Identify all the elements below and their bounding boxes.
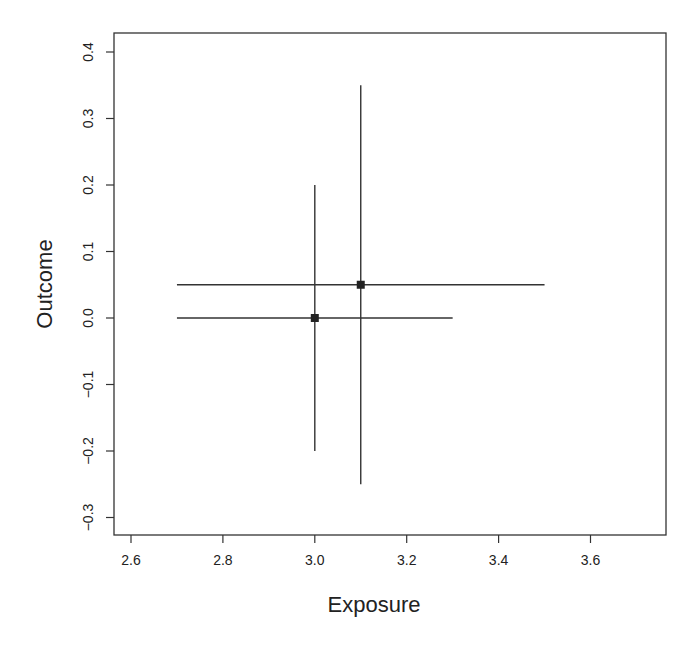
data-series [177, 85, 545, 484]
square-marker [311, 314, 319, 322]
y-tick-label: 0.4 [80, 42, 96, 62]
y-tick-label: 0.2 [80, 175, 96, 195]
x-tick-label: 2.6 [121, 552, 141, 568]
data-point [177, 85, 545, 484]
y-tick-label: 0.0 [80, 308, 96, 328]
x-tick-label: 3.4 [489, 552, 509, 568]
y-tick-label: 0.1 [80, 242, 96, 262]
x-tick-label: 3.6 [581, 552, 601, 568]
x-tick-label: 3.2 [397, 552, 417, 568]
square-marker [357, 281, 365, 289]
x-tick-label: 2.8 [213, 552, 233, 568]
y-tick-label: −0.2 [80, 437, 96, 465]
chart: 2.62.83.03.23.43.6 0.40.30.20.10.0−0.1−0… [0, 0, 699, 646]
x-tick-label: 3.0 [305, 552, 325, 568]
y-tick-label: −0.3 [80, 503, 96, 531]
x-axis: 2.62.83.03.23.43.6 [121, 535, 600, 568]
y-axis-title: Outcome [32, 239, 57, 328]
y-axis: 0.40.30.20.10.0−0.1−0.2−0.3 [80, 42, 114, 531]
x-axis-title: Exposure [328, 592, 421, 617]
y-tick-label: 0.3 [80, 109, 96, 129]
data-point [177, 185, 453, 451]
y-tick-label: −0.1 [80, 370, 96, 398]
plot-frame [114, 33, 666, 535]
